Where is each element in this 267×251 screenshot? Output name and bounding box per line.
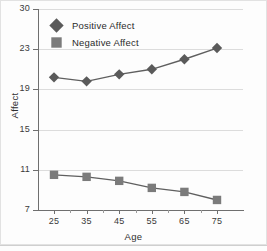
x-tick-minor [103, 210, 104, 213]
data-point-diamond [81, 76, 91, 86]
x-tick-mark-45 [119, 210, 120, 214]
series-line-negative-affect [54, 175, 217, 200]
data-point-square [115, 177, 123, 185]
data-point-square [213, 196, 221, 204]
data-point-square [50, 171, 58, 179]
legend-label: Negative Affect [72, 37, 139, 48]
y-tick-label-23: 23 [2, 44, 30, 53]
x-tick-mark-55 [152, 210, 153, 214]
data-point-diamond [114, 69, 124, 79]
x-tick-mark-75 [217, 210, 218, 214]
x-tick-minor [136, 210, 137, 213]
data-point-square [148, 184, 156, 192]
diamond-marker-icon [49, 18, 63, 32]
y-axis-title: Affect [9, 66, 20, 146]
x-tick-label-65: 65 [172, 216, 196, 226]
chart-legend: Positive Affect Negative Affect [50, 17, 139, 51]
square-marker-icon [51, 37, 61, 47]
x-tick-mark-35 [87, 210, 88, 214]
x-tick-label-25: 25 [42, 216, 66, 226]
x-tick-label-75: 75 [205, 216, 229, 226]
x-tick-mark-65 [184, 210, 185, 214]
x-axis-title: Age [0, 231, 267, 242]
x-axis-line [38, 210, 244, 211]
y-tick-mark-7 [33, 210, 38, 211]
legend-item-positive-affect: Positive Affect [50, 17, 139, 34]
legend-label: Positive Affect [72, 20, 135, 31]
x-tick-mark-25 [54, 210, 55, 214]
x-tick-minor [201, 210, 202, 213]
data-point-square [180, 188, 188, 196]
series-line-positive-affect [54, 48, 217, 81]
data-point-diamond [212, 43, 222, 53]
data-point-diamond [49, 72, 59, 82]
x-tick-minor [70, 210, 71, 213]
data-point-square [82, 173, 90, 181]
y-tick-label-30: 30 [2, 4, 30, 13]
data-point-diamond [179, 54, 189, 64]
x-tick-label-55: 55 [140, 216, 164, 226]
x-tick-label-35: 35 [75, 216, 99, 226]
chart-figure: 30231915117 253545556575 Positive Affect… [0, 0, 267, 251]
x-tick-minor [168, 210, 169, 213]
legend-item-negative-affect: Negative Affect [50, 34, 139, 51]
x-tick-label-45: 45 [107, 216, 131, 226]
y-tick-label-7: 7 [2, 205, 30, 214]
figure-bottom-rule [0, 245, 267, 246]
data-point-diamond [147, 64, 157, 74]
y-tick-label-11: 11 [2, 165, 30, 174]
